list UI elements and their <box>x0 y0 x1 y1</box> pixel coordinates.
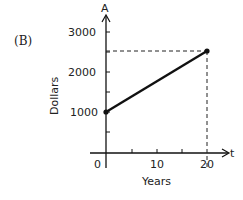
data-point-start <box>103 109 108 114</box>
x-tick-label: 10 <box>150 158 164 171</box>
panel-label: (B) <box>14 34 32 48</box>
chart: (B) A t 3000 2000 1000 0 10 20 Years Dol… <box>0 0 243 200</box>
y-tick-label: 1000 <box>70 106 98 119</box>
y-axis-symbol: A <box>101 2 109 15</box>
y-axis-label: Dollars <box>48 76 61 115</box>
x-tick-label: 0 <box>94 158 101 171</box>
y-tick-label: 2000 <box>68 66 96 79</box>
y-tick-label: 3000 <box>68 26 96 39</box>
data-point-end <box>204 48 209 53</box>
x-axis-symbol: t <box>230 147 235 160</box>
data-line <box>106 51 207 112</box>
x-axis-label: Years <box>141 175 171 188</box>
